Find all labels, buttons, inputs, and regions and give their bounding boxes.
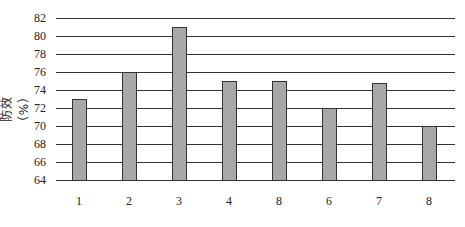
x-tick-label: 4 (219, 194, 239, 209)
y-tick-label: 74 (22, 84, 46, 96)
x-tick-label: 8 (419, 194, 439, 209)
bar (122, 72, 137, 181)
bar (422, 126, 437, 181)
y-tick-label: 64 (22, 174, 46, 186)
y-tick-label: 68 (22, 138, 46, 150)
bar (272, 81, 287, 181)
x-tick-label: 2 (119, 194, 139, 209)
bar-chart: 防效（%） 64666870727476788082 12348678 (0, 0, 465, 227)
gridline (56, 54, 455, 55)
bar (372, 83, 387, 181)
y-tick-label: 72 (22, 102, 46, 114)
x-tick-label: 6 (319, 194, 339, 209)
gridline (56, 144, 455, 145)
y-tick-label: 70 (22, 120, 46, 132)
gridline (56, 72, 455, 73)
gridline (56, 126, 455, 127)
y-tick-label: 80 (22, 30, 46, 42)
gridline (56, 36, 455, 37)
x-tick-label: 3 (169, 194, 189, 209)
x-tick-label: 1 (69, 194, 89, 209)
x-tick-label: 8 (269, 194, 289, 209)
gridline (56, 18, 455, 19)
gridline (56, 180, 455, 181)
bar (222, 81, 237, 181)
bar (322, 108, 337, 181)
y-tick-label: 82 (22, 12, 46, 24)
bar (72, 99, 87, 181)
y-tick-label: 66 (22, 156, 46, 168)
gridline (56, 162, 455, 163)
gridline (56, 90, 455, 91)
x-tick-label: 7 (369, 194, 389, 209)
bar (172, 27, 187, 181)
gridline (56, 108, 455, 109)
y-tick-label: 78 (22, 48, 46, 60)
y-tick-label: 76 (22, 66, 46, 78)
